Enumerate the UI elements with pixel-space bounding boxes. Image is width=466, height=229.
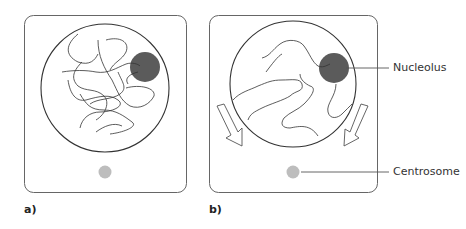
nucleus-b: [230, 21, 356, 147]
nucleolus-label: Nucleolus: [393, 61, 447, 74]
arrow-right-icon: [344, 104, 368, 146]
nucleolus-b: [319, 53, 349, 83]
panel-a: [25, 16, 187, 193]
diagram-canvas: [0, 0, 466, 229]
panel-a-label: a): [24, 203, 36, 216]
arrow-left-icon: [217, 104, 242, 146]
panel-b-label: b): [209, 203, 222, 216]
centrosome-a: [99, 166, 112, 179]
centrosome-b: [287, 166, 300, 179]
nucleus-a: [41, 24, 169, 152]
centrosome-label: Centrosome: [393, 165, 460, 178]
nucleolus-a: [130, 52, 160, 82]
chromatin-a: [62, 34, 154, 134]
panel-b: [210, 16, 390, 193]
